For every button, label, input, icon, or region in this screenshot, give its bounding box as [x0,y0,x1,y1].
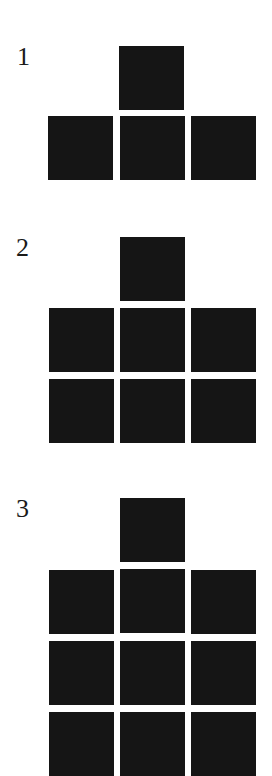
grid-square [191,641,256,705]
grid-square [120,308,185,372]
grid-square [191,570,256,634]
grid-square [120,641,185,705]
figure-label: 2 [16,235,29,261]
grid-square [49,570,114,634]
top-square [120,237,185,301]
grid-square [191,712,256,776]
top-square [119,46,184,110]
grid-square [120,569,185,633]
figure-label: 3 [16,496,29,522]
grid-square [120,712,185,776]
top-square [120,498,185,562]
figure-label: 1 [17,44,30,70]
grid-square [49,308,114,372]
grid-square [191,379,256,443]
grid-square [48,116,113,180]
grid-square [120,116,185,180]
grid-square [49,379,114,443]
grid-square [191,116,256,180]
grid-square [49,641,114,705]
grid-square [49,712,114,776]
grid-square [120,379,185,443]
grid-square [191,308,256,372]
